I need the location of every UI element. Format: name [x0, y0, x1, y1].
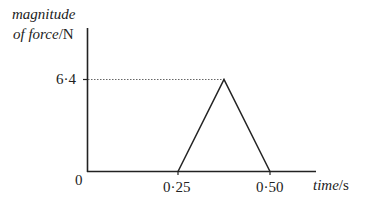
force-time-curve: [178, 80, 270, 172]
chart-plot: [0, 0, 378, 210]
